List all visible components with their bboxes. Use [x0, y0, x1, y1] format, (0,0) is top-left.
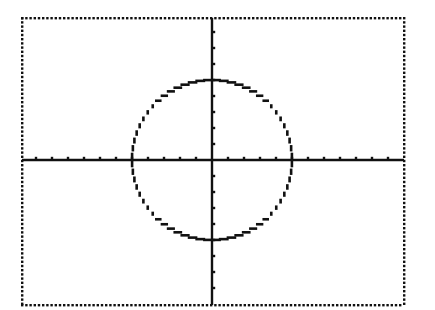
curve-pixel: [286, 184, 289, 190]
curve-pixel: [180, 234, 189, 237]
x-tick: [259, 157, 261, 160]
y-tick: [212, 47, 215, 49]
curve-pixel: [256, 223, 263, 226]
y-tick: [212, 63, 215, 65]
y-tick: [212, 31, 215, 33]
x-tick: [323, 157, 325, 160]
curve-pixel: [242, 231, 251, 234]
x-tick: [307, 157, 309, 160]
axes: [22, 18, 404, 305]
curve-pixel: [180, 83, 189, 86]
curve-pixel: [167, 227, 175, 230]
x-tick: [275, 157, 277, 160]
curve-pixel: [249, 90, 257, 93]
curve-pixel: [146, 205, 149, 209]
x-tick: [83, 157, 85, 160]
curve-pixel: [262, 99, 269, 102]
curve-pixel: [155, 99, 162, 102]
curve-pixel: [288, 138, 291, 144]
curve-pixel: [275, 205, 278, 209]
curve-pixel: [290, 169, 293, 175]
y-tick: [212, 111, 215, 113]
x-tick: [339, 157, 341, 160]
y-tick: [212, 127, 215, 129]
curve-pixel: [288, 176, 291, 182]
x-tick: [67, 157, 69, 160]
curve-pixel: [161, 223, 168, 226]
curve-pixel: [161, 94, 168, 97]
curve-pixel: [131, 161, 134, 168]
x-tick: [147, 157, 149, 160]
y-tick: [212, 255, 215, 257]
x-tick: [115, 157, 117, 160]
curve-pixel: [142, 116, 145, 121]
y-tick: [212, 271, 215, 273]
x-tick: [387, 157, 389, 160]
curve-pixel: [173, 86, 182, 89]
x-tick: [35, 157, 37, 160]
curve-pixel: [138, 123, 141, 128]
x-tick: [195, 157, 197, 160]
x-tick: [243, 157, 245, 160]
curve-pixel: [234, 83, 243, 86]
x-tick: [371, 157, 373, 160]
curve-pixel: [279, 199, 282, 204]
curve-pixel: [262, 218, 269, 221]
graph-plot: [0, 0, 435, 310]
curve-pixel: [173, 231, 182, 234]
x-tick: [99, 157, 101, 160]
y-tick: [212, 223, 215, 225]
curve-pixel: [283, 123, 286, 128]
x-tick: [227, 157, 229, 160]
curve-pixel: [234, 234, 243, 237]
curve-pixel: [290, 145, 293, 151]
curve-pixel: [146, 110, 149, 114]
curve-pixel: [142, 199, 145, 204]
y-tick: [212, 207, 215, 209]
curve-pixel: [135, 184, 138, 190]
curve-pixel: [291, 153, 294, 160]
curve-pixel: [227, 236, 237, 239]
curve-pixel: [132, 145, 135, 151]
curve-pixel: [270, 104, 273, 108]
curve-pixel: [131, 153, 134, 160]
y-tick: [212, 175, 215, 177]
curve-pixel: [283, 192, 286, 197]
curve-pixel: [279, 116, 282, 121]
curve-pixel: [270, 212, 273, 216]
curve-pixel: [132, 169, 135, 175]
curve-pixel: [133, 176, 136, 182]
curve-pixel: [155, 218, 162, 221]
x-tick: [163, 157, 165, 160]
curve-pixel: [151, 212, 154, 216]
y-tick: [212, 287, 215, 289]
calculator-graph-screen: [0, 0, 435, 310]
curve-pixel: [291, 161, 294, 168]
curve-pixel: [256, 94, 263, 97]
curve-pixel: [275, 110, 278, 114]
curve-pixel: [286, 130, 289, 136]
y-tick: [212, 143, 215, 145]
curve-pixel: [188, 81, 198, 84]
curve-pixel: [133, 138, 136, 144]
y-tick: [212, 191, 215, 193]
curve-pixel: [151, 104, 154, 108]
curve-pixel: [138, 192, 141, 197]
curve-pixel: [135, 130, 138, 136]
y-tick: [212, 95, 215, 97]
curve-pixel: [242, 86, 251, 89]
curve-pixel: [167, 90, 175, 93]
x-tick: [179, 157, 181, 160]
x-tick: [355, 157, 357, 160]
x-tick: [51, 157, 53, 160]
curve-pixel: [249, 227, 257, 230]
